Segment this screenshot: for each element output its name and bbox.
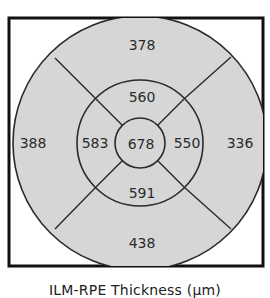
center-value: 678 (128, 136, 155, 152)
map-caption: ILM-RPE Thickness (µm) (0, 282, 270, 298)
outer-superior-value: 378 (129, 37, 156, 53)
inner-superior-value: 560 (129, 89, 156, 105)
inner-right-value: 550 (174, 135, 201, 151)
outer-inferior-value: 438 (129, 235, 156, 251)
inner-left-value: 583 (82, 135, 109, 151)
outer-right-value: 336 (227, 135, 254, 151)
inner-inferior-value: 591 (129, 185, 156, 201)
outer-left-value: 388 (20, 135, 47, 151)
